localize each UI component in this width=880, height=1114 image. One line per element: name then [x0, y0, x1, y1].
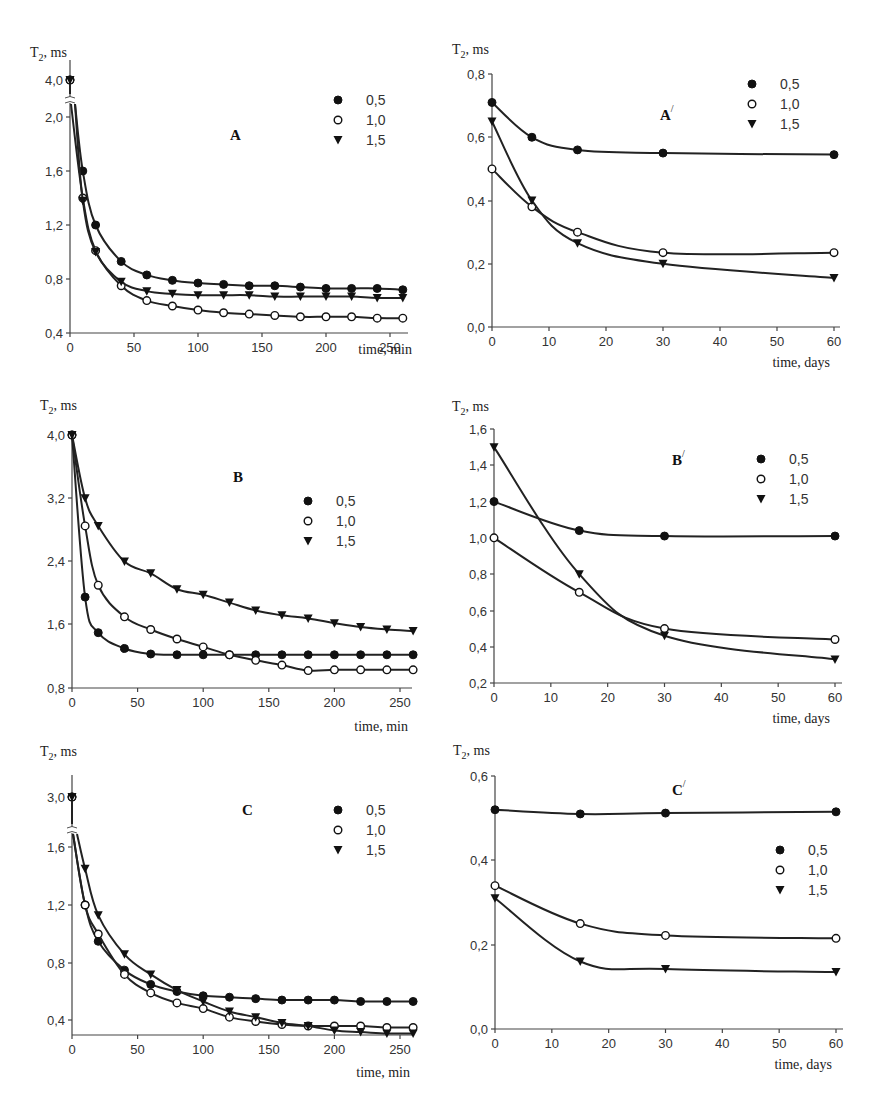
legend-label: 1,5	[336, 533, 356, 549]
x-tick-label: 150	[258, 695, 280, 710]
filled-circle-marker-icon	[348, 284, 356, 292]
x-tick-label: 30	[656, 334, 670, 349]
x-axis-label: time, days	[772, 711, 830, 726]
filled-circle-marker-icon	[409, 651, 417, 659]
filled-circle-marker-icon	[373, 284, 381, 292]
filled-triangle-down-marker-icon	[94, 911, 103, 920]
chart-panel-b-prime: 0,20,40,60,81,01,21,41,60102030405060T2,…	[452, 399, 842, 726]
x-tick-label: 0	[68, 1042, 75, 1057]
legend: 0,51,01,5	[748, 76, 800, 132]
x-tick-label: 20	[599, 334, 613, 349]
panel-label: B	[233, 469, 243, 485]
x-tick-label: 10	[544, 690, 558, 705]
filled-circle-marker-icon	[225, 993, 233, 1001]
y-axis-label: T2, ms	[452, 399, 489, 417]
open-circle-marker-icon	[94, 930, 102, 938]
x-tick-label: 50	[770, 334, 784, 349]
x-tick-label: 50	[130, 695, 144, 710]
open-circle-marker-icon	[81, 901, 89, 909]
open-circle-legend-icon	[757, 475, 765, 483]
legend: 0,51,01,5	[334, 92, 386, 148]
filled-circle-marker-icon	[94, 629, 102, 637]
y-tick-label: 1,6	[47, 840, 65, 855]
y-axis-label: T2, ms	[40, 398, 77, 416]
x-tick-label: 150	[258, 1042, 280, 1057]
x-tick-label: 200	[324, 1042, 346, 1057]
y-tick-label: 0,2	[470, 938, 488, 953]
chart-panel-c-prime: 0,00,20,40,60102030405060T2, mstime, day…	[453, 743, 843, 1072]
series-curve	[72, 435, 413, 631]
y-tick-label: 4,0	[47, 428, 65, 443]
panel-label: A	[230, 127, 241, 143]
x-tick-label: 0	[68, 695, 75, 710]
legend-label: 1,0	[366, 112, 386, 128]
y-tick-label: 1,6	[45, 164, 63, 179]
legend-label: 1,0	[336, 513, 356, 529]
filled-circle-marker-icon	[490, 498, 498, 506]
open-circle-marker-icon	[297, 313, 305, 321]
x-tick-label: 150	[251, 340, 273, 355]
legend-label: 0,5	[336, 493, 356, 509]
y-tick-label: 2,4	[47, 554, 65, 569]
filled-circle-marker-icon	[659, 149, 667, 157]
series-1-0	[68, 431, 417, 674]
x-tick-label: 200	[324, 695, 346, 710]
series-1-5	[66, 76, 408, 302]
x-tick-label: 50	[130, 1042, 144, 1057]
open-circle-marker-icon	[575, 588, 583, 596]
chart-panel-a: 0,40,81,21,62,04,0050100150200250T2, mst…	[30, 45, 412, 357]
open-circle-marker-icon	[491, 882, 499, 890]
y-axis-label: T2, ms	[453, 743, 490, 761]
x-tick-label: 0	[488, 334, 495, 349]
y-tick-label: 0,4	[45, 326, 63, 341]
x-tick-label: 30	[657, 690, 671, 705]
filled-triangle-down-legend-icon	[304, 537, 313, 546]
filled-circle-marker-icon	[383, 651, 391, 659]
y-tick-label: 0,8	[45, 272, 63, 287]
filled-circle-marker-icon	[576, 810, 584, 818]
legend-label: 1,5	[789, 491, 809, 507]
open-circle-marker-icon	[662, 932, 670, 940]
chart-panel-a-prime: 0,00,20,40,60,80102030405060T2, mstime, …	[452, 42, 841, 370]
filled-circle-legend-icon	[334, 806, 342, 814]
legend-label: 0,5	[366, 802, 386, 818]
y-tick-label: 0,0	[470, 1022, 488, 1037]
filled-circle-marker-icon	[399, 286, 407, 294]
open-circle-marker-icon	[322, 313, 330, 321]
open-circle-marker-icon	[252, 657, 260, 665]
open-circle-marker-icon	[194, 306, 202, 314]
open-circle-marker-icon	[147, 989, 155, 997]
filled-circle-marker-icon	[147, 980, 155, 988]
filled-circle-marker-icon	[252, 995, 260, 1003]
open-circle-marker-icon	[173, 635, 181, 643]
x-axis-label: time, min	[358, 342, 412, 357]
filled-circle-marker-icon	[168, 276, 176, 284]
legend-label: 0,5	[789, 451, 809, 467]
filled-circle-legend-icon	[334, 96, 342, 104]
panel-label: B/	[672, 448, 685, 468]
series-1-0	[488, 165, 838, 256]
open-circle-legend-icon	[748, 100, 756, 108]
x-tick-label: 50	[127, 340, 141, 355]
y-tick-label: 0,8	[47, 681, 65, 696]
panel-label: C	[242, 802, 253, 818]
open-circle-marker-icon	[143, 297, 151, 305]
x-tick-label: 50	[771, 690, 785, 705]
filled-circle-marker-icon	[304, 651, 312, 659]
y-tick-label: 1,4	[469, 458, 487, 473]
x-tick-label: 60	[829, 1036, 843, 1051]
series-curve	[72, 435, 413, 655]
chart-panel-b: 0,81,62,43,24,0050100150200250T2, mstime…	[40, 398, 418, 734]
y-tick-label: 0,4	[47, 1013, 65, 1028]
axis-break-icon	[65, 97, 75, 104]
y-tick-label: 0,4	[467, 194, 485, 209]
filled-triangle-down-legend-icon	[334, 136, 343, 145]
filled-circle-marker-icon	[194, 279, 202, 287]
legend: 0,51,01,5	[334, 802, 386, 858]
y-tick-label: 0,4	[470, 853, 488, 868]
axis-break-icon	[67, 827, 77, 834]
open-circle-marker-icon	[832, 935, 840, 943]
filled-circle-marker-icon	[173, 651, 181, 659]
open-circle-marker-icon	[576, 920, 584, 928]
y-tick-label: 1,0	[469, 531, 487, 546]
